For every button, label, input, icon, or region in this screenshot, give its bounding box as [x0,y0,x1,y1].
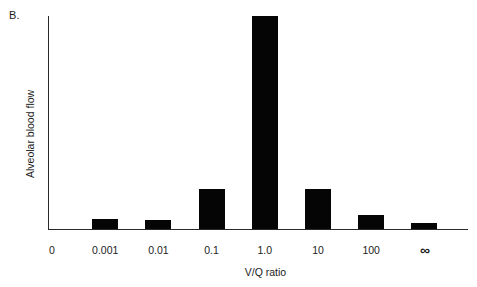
x-tick-label: ∞ [389,243,459,258]
plot-area [48,16,468,230]
bar [358,215,384,229]
bar [92,219,118,229]
x-axis-line [48,229,468,230]
bar-series [48,16,468,229]
bar [145,220,171,229]
bar [305,189,331,229]
x-axis-title-text: V/Q ratio [245,266,286,278]
x-axis-tick-labels: 00.0010.010.11.010100∞ [0,243,477,259]
x-axis-title: V/Q ratio [0,265,477,279]
panel-label: B. [9,9,20,22]
bar [252,16,278,229]
y-axis-title: Alveolar blood flow [23,38,37,178]
bar [199,189,225,229]
bar [411,223,437,229]
figure-panel-b: B. Alveolar blood flow 00.0010.010.11.01… [0,0,477,287]
